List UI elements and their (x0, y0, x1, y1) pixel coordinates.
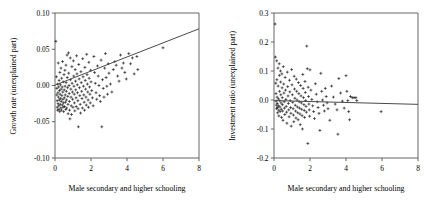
data-point (314, 82, 317, 85)
data-point (88, 77, 91, 80)
data-point (295, 78, 298, 81)
data-point (280, 72, 283, 75)
data-point (70, 65, 73, 68)
data-point (100, 125, 103, 128)
data-point (67, 72, 70, 75)
data-point (289, 106, 292, 109)
data-point (133, 72, 136, 75)
data-point (64, 93, 67, 96)
data-point (79, 103, 82, 106)
data-point (319, 72, 322, 75)
data-point (345, 90, 348, 93)
data-point (84, 88, 87, 91)
x-axis-title: Male secondary and higher schooling (288, 184, 405, 193)
data-point (87, 99, 90, 102)
data-point (293, 75, 296, 78)
data-point (322, 104, 325, 107)
data-point (66, 86, 69, 89)
data-point (315, 93, 318, 96)
data-point (305, 45, 308, 48)
y-axis-ticks (52, 13, 55, 158)
data-point (98, 94, 101, 97)
x-axis-tick-labels: 02468 (272, 164, 420, 173)
data-point (122, 62, 125, 65)
data-point (57, 86, 60, 89)
chart-panel-investment-ratio: -0.2-0.10.00.10.20.3 02468 Investment ra… (220, 0, 440, 209)
data-point (77, 107, 80, 110)
data-point (83, 66, 86, 69)
data-point (77, 125, 80, 128)
data-point (307, 86, 310, 89)
data-point (125, 78, 128, 81)
data-point (80, 90, 83, 93)
data-point (337, 77, 340, 80)
x-tick-label: 2 (89, 164, 93, 173)
data-point (305, 111, 308, 114)
data-point (295, 117, 298, 120)
data-point (131, 57, 134, 60)
data-point (328, 119, 331, 122)
data-point (282, 92, 285, 95)
data-point (75, 96, 78, 99)
data-point (58, 79, 61, 82)
data-point (59, 67, 62, 70)
data-point (276, 111, 279, 114)
data-point (81, 57, 84, 60)
data-point (281, 96, 284, 99)
data-point (297, 92, 300, 95)
data-point (345, 74, 348, 77)
data-point (102, 87, 105, 90)
data-point (78, 94, 81, 97)
data-point (95, 91, 98, 94)
data-point (283, 107, 286, 110)
data-point (63, 69, 66, 72)
data-point (63, 88, 66, 91)
data-point (303, 109, 306, 112)
data-point (297, 81, 300, 84)
data-point (94, 82, 97, 85)
data-point (80, 81, 83, 84)
data-point (60, 100, 63, 103)
data-point (297, 118, 300, 121)
data-point (380, 110, 383, 113)
data-point (332, 96, 335, 99)
data-point (68, 109, 71, 112)
y-tick-label: 0.3 (259, 9, 269, 18)
data-point (59, 93, 62, 96)
data-point (81, 97, 84, 100)
data-point (287, 94, 290, 97)
plot-frame (274, 13, 418, 158)
data-point (135, 55, 138, 58)
data-point (281, 86, 284, 89)
data-point (81, 107, 84, 110)
data-point (136, 68, 139, 71)
data-point (97, 84, 100, 87)
data-point (290, 68, 293, 71)
data-point (65, 90, 68, 93)
regression-line (274, 101, 418, 105)
data-point (327, 107, 330, 110)
data-point (280, 116, 283, 119)
data-point (93, 71, 96, 74)
data-point (278, 62, 281, 65)
data-point (282, 65, 285, 68)
data-point (301, 114, 304, 117)
data-point (282, 119, 285, 122)
data-point (295, 90, 298, 93)
data-point (86, 83, 89, 86)
data-point (105, 85, 108, 88)
data-point (318, 112, 321, 115)
data-point (110, 91, 113, 94)
data-point (293, 88, 296, 91)
data-point (355, 99, 358, 102)
data-point (73, 93, 76, 96)
data-point (86, 73, 89, 76)
y-axis-tick-labels: -0.10-0.050.000.050.10 (34, 9, 50, 163)
data-point (71, 91, 74, 94)
data-point (299, 84, 302, 87)
x-tick-label: 4 (125, 164, 129, 173)
data-point (62, 110, 65, 113)
data-point (346, 99, 349, 102)
y-tick-label: 0.00 (37, 81, 50, 90)
data-point (86, 91, 89, 94)
